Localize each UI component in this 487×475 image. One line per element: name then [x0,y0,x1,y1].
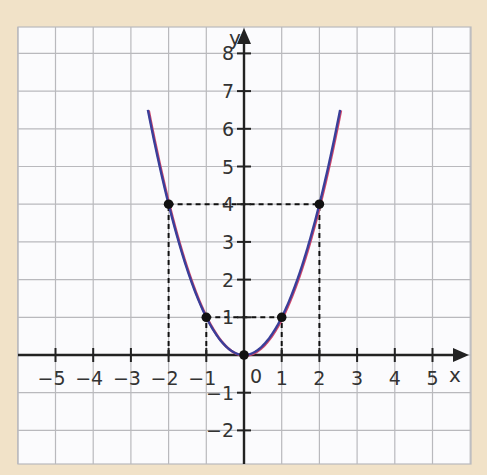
y-axis-label: y [229,26,241,50]
x-tick-label: 4 [389,367,401,389]
marked-point [239,350,249,360]
x-tick-label: 3 [351,367,363,389]
y-tick-label: 7 [222,80,234,102]
y-tick-label: 2 [222,269,234,291]
x-tick-label: −5 [37,367,65,389]
origin-label: 0 [250,365,262,387]
y-tick-label: 5 [222,156,234,178]
x-tick-label: −3 [113,367,141,389]
marked-point [277,313,287,323]
x-tick-label: −4 [75,367,103,389]
x-tick-label: 1 [276,367,288,389]
chart-figure: −5−4−3−2−112345−2−1123456780xy [0,0,487,475]
y-tick-label: 1 [222,306,234,328]
y-tick-label: 3 [222,231,234,253]
marked-point [164,199,174,209]
x-tick-label: 2 [313,367,325,389]
y-tick-label: −1 [206,382,234,404]
marked-point [315,199,325,209]
y-tick-label: −2 [206,419,234,441]
x-axis-label: x [449,363,461,387]
parabola-chart: −5−4−3−2−112345−2−1123456780xy [0,0,487,475]
y-tick-label: 6 [222,118,234,140]
marked-point [202,313,212,323]
x-tick-label: 5 [426,367,438,389]
x-tick-label: −2 [151,367,179,389]
y-tick-label: 4 [222,193,234,215]
